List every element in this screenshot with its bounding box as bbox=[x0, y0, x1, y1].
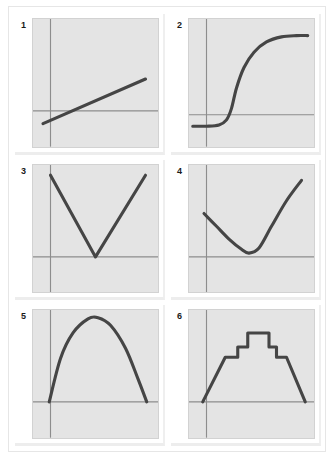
plot-area-2[interactable] bbox=[188, 18, 315, 148]
curve-sigmoid bbox=[193, 35, 308, 126]
panel-number-2: 2 bbox=[177, 20, 182, 30]
plot-area-3[interactable] bbox=[32, 164, 159, 294]
worksheet-page: 1 2 3 bbox=[8, 6, 326, 452]
plot-svg-4 bbox=[189, 165, 314, 293]
curve-downward-parabola bbox=[49, 317, 147, 402]
plot-svg-6 bbox=[189, 310, 314, 438]
panel-number-5: 5 bbox=[21, 311, 26, 321]
plot-area-5[interactable] bbox=[32, 309, 159, 439]
graph-panel-4[interactable]: 4 bbox=[171, 160, 321, 301]
plot-svg-1 bbox=[33, 19, 158, 147]
plot-area-4[interactable] bbox=[188, 164, 315, 294]
panel-number-4: 4 bbox=[177, 166, 182, 176]
panel-number-6: 6 bbox=[177, 311, 182, 321]
curve-increasing-linear bbox=[43, 79, 146, 124]
curve-step-ramp bbox=[203, 333, 306, 402]
panel-number-3: 3 bbox=[21, 166, 26, 176]
plot-svg-3 bbox=[33, 165, 158, 293]
panel-number-1: 1 bbox=[21, 20, 26, 30]
panel-grid: 1 2 3 bbox=[15, 14, 321, 446]
graph-panel-5[interactable]: 5 bbox=[15, 305, 165, 446]
graph-panel-3[interactable]: 3 bbox=[15, 160, 165, 301]
graph-panel-1[interactable]: 1 bbox=[15, 14, 165, 155]
plot-svg-2 bbox=[189, 19, 314, 147]
plot-area-6[interactable] bbox=[188, 309, 315, 439]
curve-u-shape bbox=[204, 180, 302, 253]
graph-panel-2[interactable]: 2 bbox=[171, 14, 321, 155]
curve-v-shape bbox=[51, 175, 146, 257]
plot-area-1[interactable] bbox=[32, 18, 159, 148]
plot-svg-5 bbox=[33, 310, 158, 438]
graph-panel-6[interactable]: 6 bbox=[171, 305, 321, 446]
